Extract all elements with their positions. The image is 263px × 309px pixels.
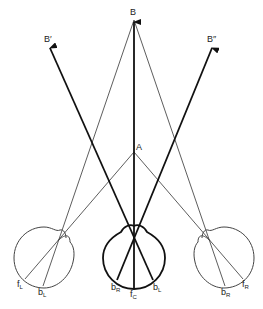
- label-bL-center: bL: [153, 283, 161, 293]
- label-bR-right: bR: [221, 288, 230, 298]
- label-bL-left: bL: [38, 288, 46, 298]
- diagram-canvas: B B′ B″ A fL bL bR fC bL bR fR: [0, 0, 263, 309]
- left-head-outline: [14, 227, 74, 288]
- label-fR: fR: [242, 280, 249, 290]
- label-B-prime: B′: [44, 35, 52, 44]
- right-head-outline: [194, 227, 254, 288]
- line-Bprime-to-bL-center: [50, 48, 153, 280]
- line-B-to-bR-right: [134, 20, 225, 286]
- diagram-svg: [0, 0, 263, 309]
- line-B-to-bL-left: [43, 20, 134, 286]
- label-B: B: [130, 8, 136, 17]
- label-fC: fC: [130, 290, 137, 300]
- label-B-double-prime: B″: [207, 35, 216, 44]
- line-A-to-fR: [134, 152, 243, 279]
- label-A: A: [136, 143, 142, 152]
- line-A-to-fL: [25, 152, 134, 279]
- line-Bdoubleprime-to-bR-center: [117, 48, 212, 280]
- label-bR-center: bR: [111, 283, 120, 293]
- label-fL: fL: [17, 280, 23, 290]
